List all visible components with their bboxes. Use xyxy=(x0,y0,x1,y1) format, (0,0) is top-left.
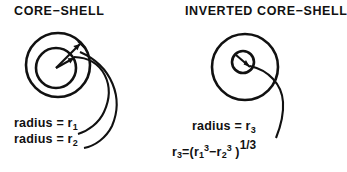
formula-minus: − xyxy=(209,145,217,159)
formula-r3-expression: r3=(r13−r23 )1/3 xyxy=(172,138,256,160)
label-radius-r3-text: radius = r xyxy=(192,119,251,133)
label-radius-r2-text: radius = r xyxy=(14,132,73,146)
formula-outer-exponent: 1/3 xyxy=(240,138,257,152)
label-radius-r2-subscript: 2 xyxy=(73,138,78,148)
label-radius-r3: radius = r3 xyxy=(192,119,256,135)
panel-title-core-shell: CORE−SHELL xyxy=(14,4,104,18)
label-radius-r1: radius = r1 xyxy=(14,116,78,132)
formula-close-paren: ) xyxy=(232,145,240,159)
panel-title-inverted-core-shell: INVERTED CORE−SHELL xyxy=(185,4,347,18)
inverted-outer-circle xyxy=(212,34,278,100)
formula-equals-open: =( xyxy=(182,145,194,159)
label-radius-r1-subscript: 1 xyxy=(73,122,78,132)
label-radius-r2: radius = r2 xyxy=(14,132,78,148)
label-radius-r1-text: radius = r xyxy=(14,116,73,130)
label-radius-r3-subscript: 3 xyxy=(251,125,256,135)
